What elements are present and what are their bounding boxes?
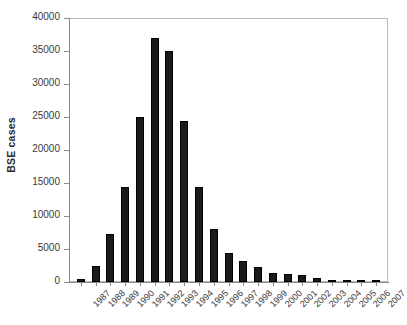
x-axis-tick — [332, 282, 333, 286]
y-axis-tick: 0 — [0, 282, 69, 283]
y-axis-tick-label: 5000 — [38, 242, 60, 253]
bar-2002 — [298, 275, 306, 282]
y-axis-tick-label: 10000 — [32, 209, 60, 220]
x-axis-tick — [243, 282, 244, 286]
bar-1991 — [136, 117, 144, 282]
x-axis-tick — [199, 282, 200, 286]
y-axis-tick-label: 25000 — [32, 110, 60, 121]
y-axis-tick-label: 15000 — [32, 176, 60, 187]
bar-1993 — [165, 51, 173, 282]
y-axis-title-label: BSE cases — [5, 117, 17, 173]
y-axis-tick: 40000 — [0, 18, 69, 19]
y-axis-tick: 20000 — [0, 150, 69, 151]
x-axis-tick — [258, 282, 259, 286]
x-axis-tick — [214, 282, 215, 286]
y-axis-tick: 35000 — [0, 51, 69, 52]
x-axis-tick — [288, 282, 289, 286]
bar-2001 — [284, 274, 292, 282]
y-axis-tick: 25000 — [0, 117, 69, 118]
y-axis-title: BSE cases — [0, 0, 22, 290]
bar-1999 — [254, 267, 262, 282]
x-axis-tick — [361, 282, 362, 286]
x-axis-tick — [169, 282, 170, 286]
x-axis-tick — [273, 282, 274, 286]
x-axis-tick — [229, 282, 230, 286]
y-axis-tick-label: 0 — [54, 275, 60, 286]
x-axis-tick — [81, 282, 82, 286]
bar-1989 — [106, 234, 114, 282]
y-axis-tick-label: 35000 — [32, 44, 60, 55]
y-axis-tick-mark — [64, 282, 69, 283]
y-axis-tick: 15000 — [0, 183, 69, 184]
y-axis-tick-label: 30000 — [32, 77, 60, 88]
y-axis-tick: 10000 — [0, 216, 69, 217]
x-axis-tick — [184, 282, 185, 286]
x-axis-tick — [96, 282, 97, 286]
x-axis-tick — [110, 282, 111, 286]
bar-1994 — [180, 121, 188, 282]
bar-1996 — [210, 229, 218, 282]
bar-1997 — [225, 253, 233, 282]
x-axis-tick — [376, 282, 377, 286]
y-axis-tick: 5000 — [0, 249, 69, 250]
bar-1995 — [195, 187, 203, 282]
y-axis-tick-label: 20000 — [32, 143, 60, 154]
bar-1998 — [239, 261, 247, 282]
x-axis-tick — [125, 282, 126, 286]
bar-1992 — [151, 38, 159, 282]
y-axis-tick-label: 40000 — [32, 11, 60, 22]
bse-cases-bar-chart: BSE cases 050001000015000200002500030000… — [0, 0, 407, 325]
x-axis-tick — [317, 282, 318, 286]
bar-1988 — [92, 266, 100, 283]
x-axis-tick — [155, 282, 156, 286]
bar-2000 — [269, 273, 277, 282]
x-axis-tick — [140, 282, 141, 286]
x-axis-tick — [302, 282, 303, 286]
bar-1990 — [121, 187, 129, 282]
x-axis-tick — [347, 282, 348, 286]
y-axis-tick: 30000 — [0, 84, 69, 85]
bars-layer — [69, 18, 388, 282]
